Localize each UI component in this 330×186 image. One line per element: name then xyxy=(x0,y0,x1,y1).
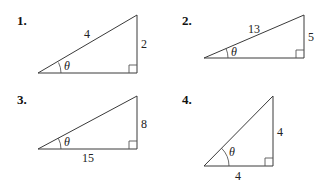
right-angle-marker xyxy=(265,158,273,166)
right-angle-marker xyxy=(296,50,304,58)
hypotenuse-label: 13 xyxy=(248,22,260,36)
right-angle-marker xyxy=(129,141,137,149)
angle-arc xyxy=(58,138,61,149)
problem-number: 3. xyxy=(17,92,27,107)
hypotenuse-label: 4 xyxy=(84,27,90,41)
vertical-side-label: 8 xyxy=(141,117,147,131)
angle-theta-label: θ xyxy=(231,45,237,59)
angle-theta-label: θ xyxy=(64,59,70,73)
problem-3: 3. θ 8 15 xyxy=(17,92,147,165)
angle-theta-label: θ xyxy=(229,145,235,159)
horizontal-side-label: 4 xyxy=(235,169,241,183)
problem-2: 2. θ 13 5 xyxy=(182,13,314,59)
right-angle-marker xyxy=(129,65,137,73)
angle-arc xyxy=(222,148,230,166)
problem-number: 4. xyxy=(182,92,192,107)
angle-arc xyxy=(226,49,228,58)
vertical-side-label: 2 xyxy=(141,37,147,51)
problem-1: 1. θ 4 2 xyxy=(17,13,147,73)
problem-number: 2. xyxy=(182,13,192,28)
angle-theta-label: θ xyxy=(64,135,70,149)
right-triangle xyxy=(38,15,137,73)
vertical-side-label: 5 xyxy=(308,30,314,44)
vertical-side-label: 4 xyxy=(277,125,283,139)
right-triangle xyxy=(204,96,273,166)
angle-arc xyxy=(59,63,62,74)
horizontal-side-label: 15 xyxy=(82,151,94,165)
problem-number: 1. xyxy=(17,13,27,28)
problem-4: 4. θ 4 4 xyxy=(182,92,283,183)
triangle-problems-figure: 1. θ 4 2 2. θ 13 5 3. θ 8 15 4. θ 4 4 xyxy=(0,0,330,186)
right-triangle xyxy=(38,96,137,149)
